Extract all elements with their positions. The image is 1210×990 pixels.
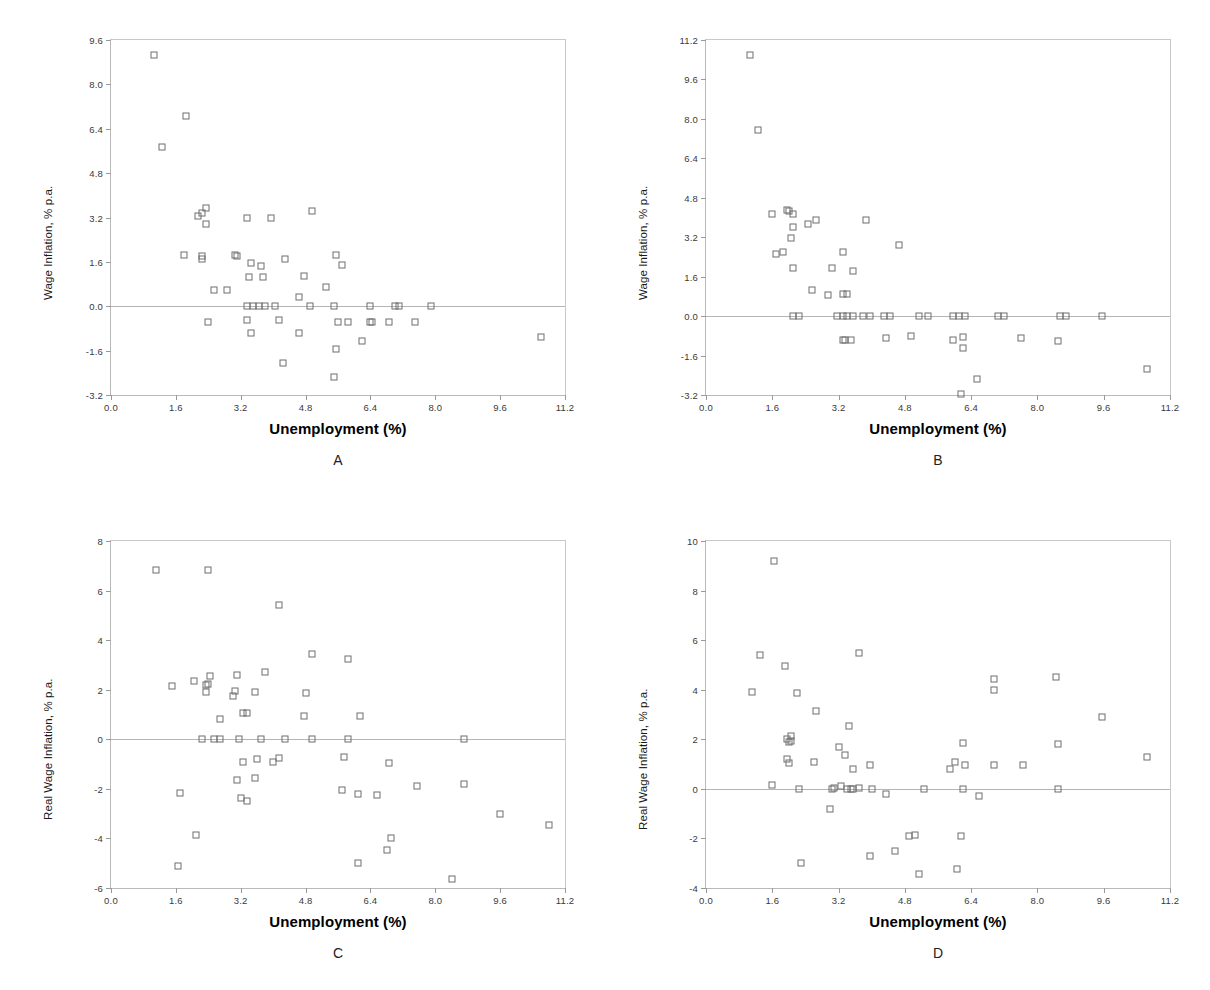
x-tick-label-c: 8.0: [428, 895, 442, 906]
panel-letter-a: A: [333, 452, 342, 468]
data-point: [345, 318, 352, 325]
x-tick-label-c: 9.6: [493, 895, 507, 906]
x-tick-label-b: 6.4: [964, 402, 978, 413]
data-point: [296, 293, 303, 300]
data-point: [385, 318, 392, 325]
y-tick-a: [106, 173, 111, 174]
data-point: [174, 862, 181, 869]
data-point: [460, 736, 467, 743]
x-tick-c: [565, 888, 566, 893]
x-tick-c: [241, 888, 242, 893]
data-point: [207, 673, 214, 680]
data-point: [990, 762, 997, 769]
data-point: [866, 313, 873, 320]
data-point: [243, 214, 250, 221]
data-point: [308, 207, 315, 214]
data-point: [367, 303, 374, 310]
x-tick-a: [306, 395, 307, 400]
y-tick-a: [106, 129, 111, 130]
x-tick-label-c: 6.4: [364, 895, 378, 906]
data-point: [235, 736, 242, 743]
x-tick-c: [500, 888, 501, 893]
data-point: [895, 241, 902, 248]
data-point: [357, 712, 364, 719]
data-point: [308, 736, 315, 743]
data-point: [199, 256, 206, 263]
data-point: [812, 707, 819, 714]
data-point: [233, 671, 240, 678]
data-point: [355, 860, 362, 867]
x-axis-title-b: Unemployment (%): [869, 420, 1006, 437]
x-tick-b: [971, 395, 972, 400]
data-point: [247, 329, 254, 336]
x-tick-label-c: 0.0: [104, 895, 118, 906]
y-tick-label-c: -2: [94, 783, 103, 794]
data-point: [282, 736, 289, 743]
data-point: [233, 777, 240, 784]
x-tick-d: [905, 888, 906, 893]
data-point: [961, 313, 968, 320]
x-tick-label-d: 8.0: [1031, 895, 1045, 906]
data-point: [268, 214, 275, 221]
panel-letter-b: B: [933, 452, 942, 468]
y-tick-label-a: 4.8: [89, 168, 103, 179]
data-point: [1098, 313, 1105, 320]
x-axis-title-c: Unemployment (%): [269, 913, 406, 930]
y-tick-label-b: 0.0: [684, 311, 698, 322]
plot-area-b: -3.2-1.60.01.63.24.86.48.09.611.20.01.63…: [705, 39, 1171, 396]
y-tick-b: [701, 119, 706, 120]
data-point: [845, 722, 852, 729]
data-point: [959, 334, 966, 341]
y-tick-label-c: 6: [98, 585, 103, 596]
y-tick-label-d: 10: [687, 536, 698, 547]
data-point: [332, 251, 339, 258]
panel-d: -4-202468100.01.63.24.86.48.09.611.2 Rea…: [605, 495, 1210, 990]
data-point: [959, 785, 966, 792]
x-tick-label-b: 3.2: [832, 402, 846, 413]
data-point: [414, 783, 421, 790]
y-axis-title-b: Wage Inflation, % p.a.: [637, 186, 649, 300]
y-tick-a: [106, 262, 111, 263]
data-point: [276, 754, 283, 761]
data-point: [229, 692, 236, 699]
x-axis-title-a: Unemployment (%): [269, 420, 406, 437]
data-point: [203, 689, 210, 696]
data-point: [850, 267, 857, 274]
y-tick-label-b: 6.4: [684, 153, 698, 164]
data-point: [947, 766, 954, 773]
data-point: [180, 251, 187, 258]
data-point: [1055, 741, 1062, 748]
panel-b: -3.2-1.60.01.63.24.86.48.09.611.20.01.63…: [605, 0, 1210, 495]
x-tick-c: [306, 888, 307, 893]
data-point: [545, 821, 552, 828]
x-tick-a: [500, 395, 501, 400]
data-point: [243, 798, 250, 805]
data-point: [262, 303, 269, 310]
y-tick-label-b: 3.2: [684, 232, 698, 243]
data-point: [959, 740, 966, 747]
y-tick-label-d: 8: [693, 585, 698, 596]
y-tick-c: [106, 591, 111, 592]
y-tick-b: [701, 79, 706, 80]
data-point: [794, 690, 801, 697]
x-tick-d: [1104, 888, 1105, 893]
data-point: [866, 852, 873, 859]
data-point: [460, 780, 467, 787]
data-point: [856, 649, 863, 656]
data-point: [808, 287, 815, 294]
data-point: [883, 335, 890, 342]
data-point: [827, 805, 834, 812]
x-tick-c: [435, 888, 436, 893]
figure-canvas: -3.2-1.60.01.63.24.86.48.09.60.01.63.24.…: [0, 0, 1210, 990]
y-tick-label-b: -1.6: [681, 350, 698, 361]
data-point: [245, 274, 252, 281]
data-point: [448, 876, 455, 883]
x-tick-c: [370, 888, 371, 893]
y-tick-d: [701, 838, 706, 839]
data-point: [787, 235, 794, 242]
panel-letter-c: C: [333, 945, 343, 961]
plot-area-d: -4-202468100.01.63.24.86.48.09.611.2: [705, 540, 1171, 889]
y-tick-label-c: -6: [94, 883, 103, 894]
plot-area-c: -6-4-2024680.01.63.24.86.48.09.611.2: [110, 540, 566, 889]
y-tick-label-b: 1.6: [684, 271, 698, 282]
